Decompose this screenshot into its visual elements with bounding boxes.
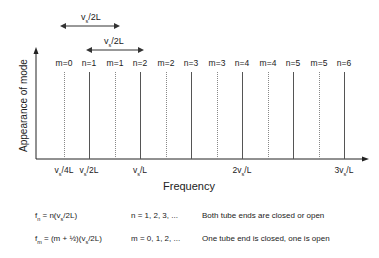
mode-line-dashed [319,72,320,159]
mode-line-dashed [166,72,167,159]
x-tick-label: 3vs/L [335,165,354,177]
mode-line-dashed [268,72,269,159]
equation-1-range: n = 1, 2, 3, ... [131,211,178,220]
mode-label: n=1 [82,58,96,68]
mode-line-solid [242,72,243,159]
mode-line-dashed [217,72,218,159]
mode-label: n=3 [184,58,198,68]
equation-1-description: Both tube ends are closed or open [202,211,324,220]
mode-label: m=3 [209,58,226,68]
mode-line-solid [191,72,192,159]
x-tick-label: vs/4L [55,165,74,177]
mode-label: m=0 [56,58,73,68]
equation-1-formula: fn = n(vs/2L) [35,211,77,222]
mode-label: n=4 [235,58,249,68]
y-axis-label: Appearance of mode [18,56,29,156]
mode-label: n=5 [286,58,300,68]
mode-label: m=4 [260,58,277,68]
equation-2-description: One tube end is closed, one is open [202,234,330,243]
mode-label: m=1 [107,58,124,68]
x-tick-label: 2vs/L [233,165,252,177]
mode-label: n=2 [133,58,147,68]
mode-line-dashed [64,72,65,159]
x-axis-label: Frequency [163,180,215,192]
mode-line-solid [89,72,90,159]
x-tick-label: vs/L [133,165,147,177]
mode-line-dashed [115,72,116,159]
mode-line-solid [344,72,345,159]
mode-label: m=2 [158,58,175,68]
equation-2-formula: fm = (m + ½)(vs/2L) [35,234,102,245]
mode-label: n=6 [337,58,351,68]
equation-2-range: m = 0, 1, 2, ... [131,234,180,243]
mode-line-solid [293,72,294,159]
mode-line-solid [140,72,141,159]
mode-label: m=5 [311,58,328,68]
x-tick-label: vs/2L [80,165,99,177]
